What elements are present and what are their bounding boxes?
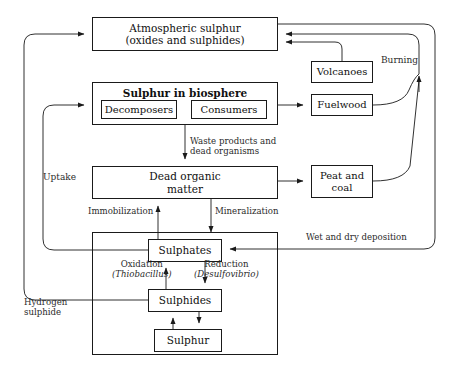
edge-label-hydrogen-sulphide: Hydrogen sulphide (24, 297, 67, 318)
node-atmospheric-sulphur-line2: (oxides and sulphides) (125, 34, 244, 46)
edge-label-mineralization: Mineralization (215, 206, 278, 216)
edge-label-oxidation-line1: Oxidation (121, 259, 163, 269)
node-volcanoes-label: Volcanoes (317, 66, 368, 78)
edge-label-waste-products-line1: Waste products and (190, 136, 276, 146)
node-peat-and-coal-line2: coal (332, 182, 353, 194)
edge-label-waste-products-line2: dead organisms (190, 146, 259, 156)
node-sulphur[interactable]: Sulphur (154, 329, 222, 352)
edge-volcanoes-to-atmosphere (286, 42, 342, 61)
node-atmospheric-sulphur[interactable]: Atmospheric sulphur (oxides and sulphide… (92, 17, 278, 51)
node-dead-organic-matter-line2: matter (167, 183, 203, 195)
node-sulphides[interactable]: Sulphides (148, 289, 222, 312)
edge-label-wet-and-dry-deposition: Wet and dry deposition (306, 232, 407, 242)
edge-label-reduction-organism: (Desulfovibrio) (194, 269, 259, 279)
sulphur-cycle-diagram: Atmospheric sulphur (oxides and sulphide… (0, 0, 457, 380)
edge-label-reduction-line1: Reduction (204, 259, 248, 269)
edge-label-hydrogen-sulphide-line1: Hydrogen (24, 297, 67, 307)
node-sulphides-label: Sulphides (159, 294, 211, 306)
edge-label-oxidation-organism: (Thiobacillus) (112, 269, 172, 279)
node-atmospheric-sulphur-line1: Atmospheric sulphur (129, 22, 240, 34)
node-decomposers-label: Decomposers (105, 104, 173, 116)
node-consumers[interactable]: Consumers (191, 100, 267, 119)
edge-label-waste-products: Waste products and dead organisms (190, 136, 276, 157)
node-decomposers[interactable]: Decomposers (101, 100, 177, 119)
edge-label-hydrogen-sulphide-line2: sulphide (24, 307, 61, 317)
node-peat-and-coal-line1: Peat and (320, 170, 364, 182)
edge-label-immobilization: Immobilization (88, 206, 153, 216)
node-volcanoes[interactable]: Volcanoes (311, 61, 373, 83)
node-dead-organic-matter-line1: Dead organic (149, 170, 220, 182)
node-sulphates-label: Sulphates (159, 244, 212, 256)
node-fuelwood-label: Fuelwood (317, 99, 367, 111)
node-sulphur-in-biosphere-title: Sulphur in biosphere (123, 87, 247, 99)
node-dead-organic-matter[interactable]: Dead organic matter (92, 166, 278, 199)
edge-label-uptake: Uptake (43, 172, 76, 183)
edge-label-reduction: Reduction (Desulfovibrio) (194, 259, 259, 280)
edge-peat-to-burning-rail (373, 80, 419, 181)
node-consumers-label: Consumers (201, 104, 258, 116)
node-fuelwood[interactable]: Fuelwood (311, 94, 373, 116)
edge-label-oxidation: Oxidation (Thiobacillus) (112, 259, 172, 280)
node-sulphur-label: Sulphur (167, 334, 210, 346)
node-peat-and-coal[interactable]: Peat and coal (311, 165, 373, 198)
edge-label-burning: Burning (381, 55, 418, 66)
